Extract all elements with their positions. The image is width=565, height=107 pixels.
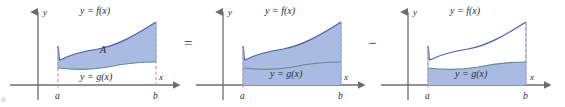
tick-label-b: b — [338, 91, 343, 101]
curve-label-g: y = g(x) — [269, 68, 303, 80]
region-label-A: A — [99, 44, 107, 55]
tick-label-a: a — [425, 91, 430, 101]
x-axis-label: x — [529, 72, 534, 82]
area-between-curves-figure: y x y = f(x) y = g(x) A a b y x — [0, 0, 565, 107]
curve-label-f: y = f(x) — [449, 5, 481, 17]
curve-label-g: y = g(x) — [79, 71, 113, 83]
y-axis-label: y — [227, 7, 232, 17]
minus-operator: − — [368, 36, 376, 51]
scan-artifact — [1, 97, 6, 102]
tick-label-b: b — [153, 91, 158, 101]
y-axis-label: y — [412, 7, 417, 17]
axes-panel-3: y x — [381, 7, 545, 100]
curve-label-f: y = f(x) — [79, 5, 111, 17]
curve-f — [428, 22, 526, 60]
x-axis-label: x — [158, 72, 163, 82]
tick-label-a: a — [55, 91, 60, 101]
y-axis-label: y — [42, 7, 47, 17]
curve-label-f: y = f(x) — [264, 5, 296, 17]
panel-area-between: y x y = f(x) y = g(x) A a b — [10, 5, 174, 101]
panel-under-f: y x y = f(x) y = g(x) a b — [196, 5, 359, 101]
x-axis-label: x — [343, 72, 348, 82]
equals-operator: = — [184, 36, 192, 51]
panel-under-g: y x y = f(x) y = g(x) a b — [381, 5, 545, 101]
tick-label-b: b — [523, 91, 528, 101]
curve-label-g: y = g(x) — [454, 68, 488, 80]
tick-label-a: a — [240, 91, 245, 101]
